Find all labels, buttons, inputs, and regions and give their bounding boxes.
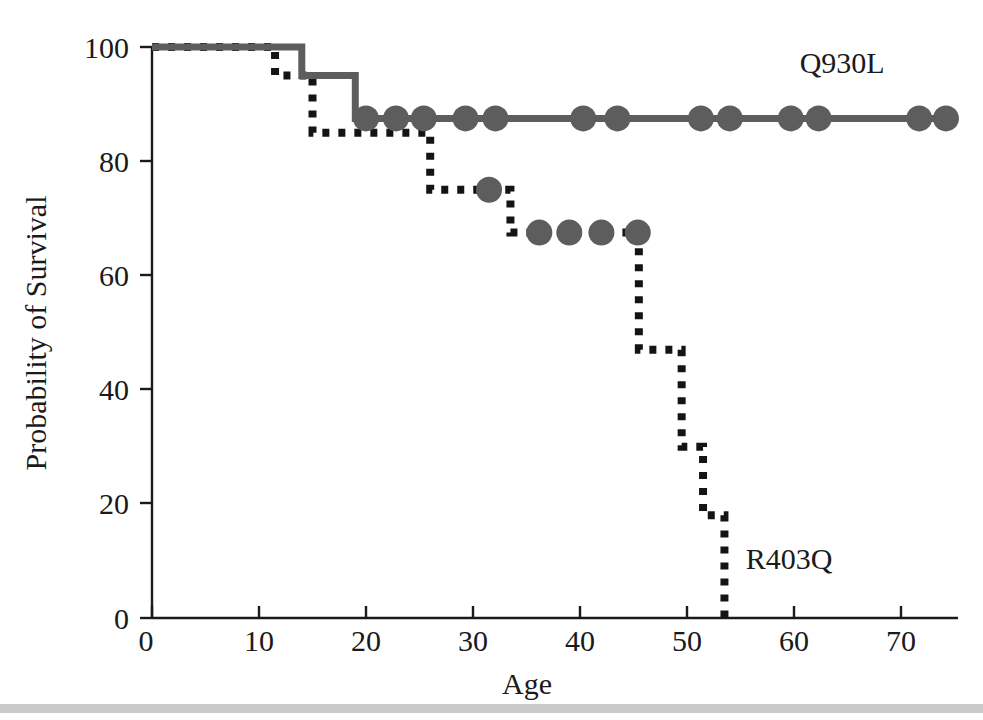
censor-marker [556, 220, 582, 246]
censor-marker [411, 105, 437, 131]
survival-chart-figure: 100 80 60 40 20 0 0 10 20 30 40 50 60 70… [0, 0, 983, 720]
bottom-divider-rule [0, 704, 983, 713]
x-tick-labels: 0 10 20 30 40 50 60 70 [139, 624, 917, 657]
censor-marker [383, 105, 409, 131]
x-tick-label-40: 40 [565, 624, 595, 657]
x-tick-label-70: 70 [886, 624, 916, 657]
censor-marker [906, 105, 932, 131]
series-line-r403q [152, 47, 724, 618]
censor-marker [588, 220, 614, 246]
x-tick-label-20: 20 [351, 624, 381, 657]
censor-marker [482, 105, 508, 131]
x-tick-marks [152, 606, 901, 618]
censor-marker [604, 105, 630, 131]
series-label-r403q: R403Q [746, 542, 833, 575]
series-label-q930l: Q930L [800, 46, 885, 79]
censor-marker [778, 105, 804, 131]
y-tick-label-20: 20 [99, 487, 129, 520]
y-tick-label-60: 60 [99, 259, 129, 292]
y-tick-label-80: 80 [99, 145, 129, 178]
censor-marker [453, 105, 479, 131]
y-tick-label-100: 100 [84, 31, 129, 64]
x-tick-label-10: 10 [244, 624, 274, 657]
axes-group [152, 46, 958, 618]
y-tick-label-0: 0 [114, 602, 129, 635]
censor-marker [570, 105, 596, 131]
censor-marker [688, 105, 714, 131]
censor-marker [933, 105, 959, 131]
series-layer [152, 47, 959, 618]
censor-marker [476, 177, 502, 203]
x-axis-title: Age [502, 667, 552, 700]
censor-marker [625, 220, 651, 246]
x-tick-label-50: 50 [672, 624, 702, 657]
y-tick-label-40: 40 [99, 373, 129, 406]
censor-marker [353, 105, 379, 131]
x-tick-label-60: 60 [779, 624, 809, 657]
y-tick-marks [140, 47, 152, 618]
censor-marker [717, 105, 743, 131]
y-axis-title: Probability of Survival [19, 196, 52, 471]
y-tick-labels: 100 80 60 40 20 0 [84, 31, 129, 635]
x-tick-label-0: 0 [139, 624, 154, 657]
censor-marker [526, 220, 552, 246]
x-tick-label-30: 30 [458, 624, 488, 657]
censor-marker [806, 105, 832, 131]
survival-plot: 100 80 60 40 20 0 0 10 20 30 40 50 60 70… [0, 0, 983, 720]
